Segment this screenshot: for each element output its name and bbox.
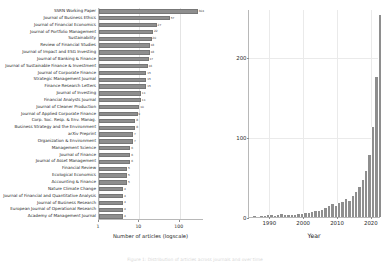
bar-value-label: 57 bbox=[171, 17, 175, 20]
bar-rectangle bbox=[99, 16, 170, 20]
bar-value-label: 18 bbox=[150, 44, 154, 47]
bar-category-label: Academy of Management Journal bbox=[28, 214, 96, 218]
bar-category-label: Sustainability bbox=[68, 36, 96, 40]
bar-category-label: Journal of Impact and ESG Investing bbox=[22, 50, 96, 54]
bar-chart-bar: 4 bbox=[99, 214, 204, 220]
histogram-x-tick-label: 2020 bbox=[364, 220, 378, 226]
bar-value-label: 304 bbox=[198, 10, 204, 13]
bar-rectangle bbox=[99, 194, 123, 198]
bar-chart-bar: 5 bbox=[99, 166, 204, 172]
bar-rectangle bbox=[99, 37, 152, 41]
bar-rectangle bbox=[99, 126, 135, 130]
bar-value-label: 4 bbox=[124, 201, 126, 204]
bar-category-label: Journal of Asset Management bbox=[36, 159, 96, 163]
bar-rectangle bbox=[99, 98, 141, 102]
bar-category-label: Journal of Sustainable Finance & Investm… bbox=[5, 64, 96, 68]
bar-chart-bar: 6 bbox=[99, 145, 204, 151]
bar-rectangle bbox=[99, 180, 127, 184]
bar-chart-bar: 20 bbox=[99, 36, 204, 42]
bar-chart-bar: 22 bbox=[99, 29, 204, 35]
histogram-y-tick-mark bbox=[247, 138, 249, 139]
bar-chart-bar: 18 bbox=[99, 50, 204, 56]
bar-rectangle bbox=[99, 173, 127, 177]
bar-chart-bar: 6 bbox=[99, 152, 204, 158]
bar-rectangle bbox=[99, 132, 133, 136]
bar-value-label: 11 bbox=[142, 92, 146, 95]
bar-value-label: 4 bbox=[124, 195, 126, 198]
bar-category-label: Journal of Banking & Finance bbox=[37, 57, 96, 61]
histogram-gridline-vertical bbox=[269, 10, 270, 217]
journals-bar-chart-panel: 3045727222018181716151515111110988776665… bbox=[0, 0, 207, 250]
bar-chart-bar: 11 bbox=[99, 98, 204, 104]
bar-value-label: 11 bbox=[142, 99, 146, 102]
bar-value-label: 8 bbox=[136, 126, 138, 129]
histogram-y-tick-mark bbox=[247, 58, 249, 59]
bar-value-label: 4 bbox=[124, 215, 126, 218]
bar-rectangle bbox=[99, 71, 146, 75]
bar-value-label: 20 bbox=[152, 37, 156, 40]
bar-rectangle bbox=[99, 64, 148, 68]
bar-category-label: Business Strategy and the Environment bbox=[14, 125, 96, 129]
histogram-gridline-vertical bbox=[303, 10, 304, 217]
bar-value-label: 17 bbox=[149, 58, 153, 61]
bar-category-label: Journal of Business Ethics bbox=[44, 16, 96, 20]
histogram-x-tick-mark bbox=[269, 217, 270, 219]
bar-value-label: 6 bbox=[131, 160, 133, 163]
bar-chart-bar: 4 bbox=[99, 193, 204, 199]
bar-chart-bar: 4 bbox=[99, 207, 204, 213]
bar-rectangle bbox=[99, 187, 123, 191]
histogram-bar bbox=[378, 15, 381, 217]
bar-chart-bar: 16 bbox=[99, 63, 204, 69]
bar-rectangle bbox=[99, 30, 153, 34]
histogram-x-tick-label: 2010 bbox=[330, 220, 344, 226]
bar-category-label: European Journal of Operational Research bbox=[10, 207, 96, 211]
bar-value-label: 10 bbox=[140, 106, 144, 109]
bar-category-label: Journal of Corporate Finance bbox=[38, 71, 96, 75]
bar-value-label: 22 bbox=[154, 30, 158, 33]
bar-value-label: 5 bbox=[128, 167, 130, 170]
bar-category-label: Journal of Investing bbox=[56, 91, 96, 95]
bar-chart-x-axis-title: Number of articles (logscale) bbox=[98, 233, 203, 239]
bar-value-label: 4 bbox=[124, 188, 126, 191]
histogram-bar bbox=[252, 216, 255, 217]
bar-chart-x-tick-mark bbox=[179, 220, 180, 222]
bar-chart-bar: 7 bbox=[99, 139, 204, 145]
bar-chart-bar: 5 bbox=[99, 173, 204, 179]
bar-category-label: Accounting & Finance bbox=[52, 180, 96, 184]
bar-category-label: Nature Climate Change bbox=[48, 187, 96, 191]
bar-category-label: Financial Review bbox=[62, 166, 96, 170]
bar-chart-bar: 18 bbox=[99, 43, 204, 49]
bar-category-label: Corp. Soc. Resp. & Env. Manag. bbox=[32, 118, 96, 122]
bar-rectangle bbox=[99, 153, 130, 157]
bar-rectangle bbox=[99, 43, 150, 47]
histogram-y-tick-mark bbox=[247, 218, 249, 219]
bar-value-label: 16 bbox=[148, 65, 152, 68]
bar-value-label: 5 bbox=[128, 181, 130, 184]
histogram-gridline-vertical bbox=[337, 10, 338, 217]
bar-chart-plot-area: 3045727222018181716151515111110988776665… bbox=[98, 8, 203, 220]
histogram-x-tick-mark bbox=[371, 217, 372, 219]
bar-value-label: 6 bbox=[131, 147, 133, 150]
bar-value-label: 8 bbox=[136, 119, 138, 122]
year-histogram-panel: 01002001990200020102020 Year bbox=[218, 0, 390, 250]
bar-category-label: Organization & Environment bbox=[38, 139, 96, 143]
bar-chart-x-tick-mark bbox=[138, 220, 139, 222]
bar-rectangle bbox=[99, 57, 149, 61]
bar-value-label: 18 bbox=[150, 51, 154, 54]
bar-chart-bar: 6 bbox=[99, 159, 204, 165]
bar-category-label: Journal of Portfolio Management bbox=[30, 30, 96, 34]
histogram-x-tick-label: 1990 bbox=[262, 220, 276, 226]
bar-value-label: 5 bbox=[128, 174, 130, 177]
bar-rectangle bbox=[99, 50, 150, 54]
bar-category-label: Journal of Financial Economics bbox=[34, 23, 96, 27]
bar-category-label: Management Science bbox=[52, 146, 96, 150]
bar-chart-bar: 15 bbox=[99, 84, 204, 90]
bar-rectangle bbox=[99, 139, 133, 143]
bar-chart-bar: 10 bbox=[99, 104, 204, 110]
bar-chart-x-tick-label: 1 bbox=[97, 224, 100, 229]
bar-value-label: 7 bbox=[134, 140, 136, 143]
figure-caption: Figure 1: Distribution of articles acros… bbox=[0, 257, 390, 262]
bar-category-label: Journal of Financial and Quantitative An… bbox=[3, 194, 96, 198]
bar-rectangle bbox=[99, 167, 127, 171]
bar-chart-bar: 4 bbox=[99, 200, 204, 206]
